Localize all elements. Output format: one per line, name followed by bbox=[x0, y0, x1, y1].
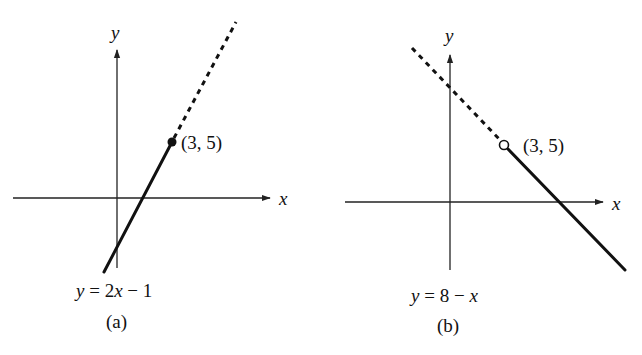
equation-b: y = 8 − x bbox=[409, 285, 478, 306]
open-point-b bbox=[500, 141, 509, 150]
dashed-segment-a bbox=[174, 22, 236, 138]
caption-a: (a) bbox=[106, 311, 127, 333]
solid-segment-a bbox=[104, 142, 172, 272]
y-axis-label-a: y bbox=[109, 22, 120, 43]
caption-b: (b) bbox=[437, 315, 459, 337]
dashed-segment-b bbox=[412, 48, 501, 141]
panel-a: x y (3, 5) y = 2x − 1 (a) bbox=[13, 22, 288, 333]
solid-segment-b bbox=[508, 149, 625, 270]
filled-point-a bbox=[168, 138, 177, 147]
x-axis-label-a: x bbox=[278, 188, 288, 209]
piecewise-graphs-figure: x y (3, 5) y = 2x − 1 (a) x y (3, 5) bbox=[0, 0, 642, 355]
point-label-b: (3, 5) bbox=[523, 135, 564, 157]
x-axis-label-b: x bbox=[611, 193, 621, 214]
panel-b: x y (3, 5) y = 8 − x (b) bbox=[345, 25, 625, 337]
equation-a: y = 2x − 1 bbox=[74, 280, 152, 301]
point-label-a: (3, 5) bbox=[181, 132, 222, 154]
y-axis-label-b: y bbox=[443, 25, 454, 46]
